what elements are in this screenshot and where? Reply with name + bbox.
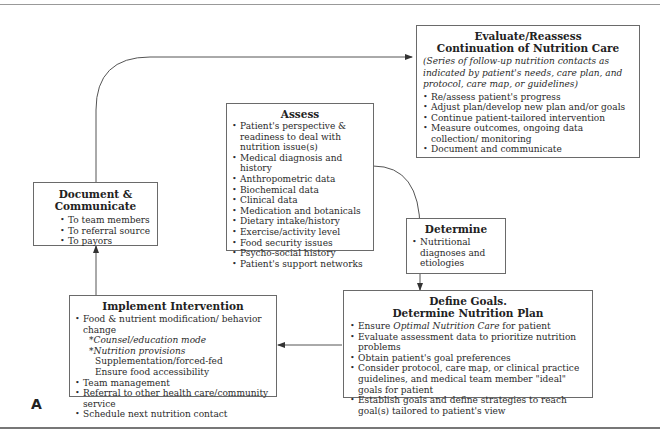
- list-item: Dietary intake/history: [232, 216, 368, 227]
- evaluate-title-line1: Evaluate/Reassess: [423, 30, 633, 42]
- list-item: Measure outcomes, ongoing data collectio…: [423, 123, 633, 144]
- list-item: Document and communicate: [423, 144, 633, 155]
- list-subitem: Ensure food accessibility: [75, 367, 271, 378]
- list-item: Food security issues: [232, 238, 368, 249]
- list-item: Psycho-social history: [232, 248, 368, 259]
- assess-list: Patient's perspective & readiness to dea…: [232, 121, 368, 269]
- list-item: Team management: [75, 378, 271, 389]
- list-item: Patient's perspective & readiness to dea…: [232, 121, 368, 153]
- implement-title: Implement Intervention: [75, 300, 271, 312]
- figure-label: A: [31, 396, 42, 412]
- determine-title: Determine: [412, 223, 500, 235]
- list-item: Medical diagnosis and history: [232, 153, 368, 174]
- list-item: Consider protocol, care map, or clinical…: [350, 363, 586, 395]
- list-item: Establish goals and define strategies to…: [350, 395, 586, 416]
- list-item: Obtain patient's goal preferences: [350, 353, 586, 364]
- define-goals-list: Ensure Optimal Nutrition Care for patien…: [350, 321, 586, 416]
- determine-box: Determine Nutritional diagnoses and etio…: [406, 218, 506, 274]
- list-item: Clinical data: [232, 195, 368, 206]
- item-text: for patient: [499, 321, 550, 331]
- item-text: Ensure: [358, 321, 393, 331]
- list-item: Exercise/activity level: [232, 227, 368, 238]
- define-goals-box: Define Goals. Determine Nutrition Plan E…: [343, 290, 593, 398]
- list-item: Biochemical data: [232, 185, 368, 196]
- determine-list: Nutritional diagnoses and etiologies: [412, 237, 500, 269]
- list-item: Ensure Optimal Nutrition Care for patien…: [350, 321, 586, 332]
- list-item: To payors: [60, 236, 151, 247]
- evaluate-title-line2: Continuation of Nutrition Care: [423, 42, 633, 54]
- list-item: Adjust plan/develop new plan and/or goal…: [423, 102, 633, 113]
- list-item: Referral to other health care/community …: [75, 388, 271, 409]
- list-item: Continue patient-tailored intervention: [423, 113, 633, 124]
- define-goals-title-line1: Define Goals.: [350, 295, 586, 307]
- assess-box: Assess Patient's perspective & readiness…: [226, 103, 374, 251]
- list-item: To team members: [60, 215, 151, 226]
- evaluate-subtitle: (Series of follow-up nutrition contacts …: [423, 56, 633, 91]
- list-subitem: *Counsel/education mode: [75, 335, 271, 346]
- implement-list: Food & nutrient modification/ behavior c…: [75, 314, 271, 420]
- assess-title: Assess: [232, 108, 368, 120]
- list-item: Anthropometric data: [232, 174, 368, 185]
- list-item: To referral source: [60, 226, 151, 237]
- list-subitem: Supplementation/forced-fed: [75, 356, 271, 367]
- document-list: To team members To referral source To pa…: [40, 215, 151, 247]
- list-item: Evaluate assessment data to prioritize n…: [350, 332, 586, 353]
- item-emphasis: Optimal Nutrition Care: [393, 321, 499, 331]
- define-goals-title-line2: Determine Nutrition Plan: [350, 307, 586, 319]
- list-subitem: *Nutrition provisions: [75, 346, 271, 357]
- document-title: Document & Communicate: [40, 188, 151, 212]
- list-item: Nutritional diagnoses and etiologies: [412, 237, 500, 269]
- list-item: Medication and botanicals: [232, 206, 368, 217]
- evaluate-reassess-box: Evaluate/Reassess Continuation of Nutrit…: [416, 25, 640, 158]
- list-item: Schedule next nutrition contact: [75, 409, 271, 420]
- evaluate-list: Re/assess patient's progress Adjust plan…: [423, 92, 633, 156]
- list-item: Food & nutrient modification/ behavior c…: [75, 314, 271, 335]
- list-item: Re/assess patient's progress: [423, 92, 633, 103]
- implement-intervention-box: Implement Intervention Food & nutrient m…: [69, 295, 277, 397]
- list-item: Patient's support networks: [232, 259, 368, 270]
- document-communicate-box: Document & Communicate To team members T…: [33, 182, 158, 246]
